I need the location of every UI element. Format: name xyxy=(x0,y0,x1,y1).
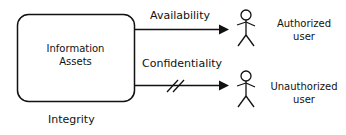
asset-label-line2: Assets xyxy=(17,55,134,68)
authorized-user-label: Authorized user xyxy=(268,17,340,43)
stick-figure-icon xyxy=(237,10,255,46)
unauthorized-user-line2: user xyxy=(266,93,342,106)
confidentiality-arrow xyxy=(135,80,230,92)
information-assets-label: Information Assets xyxy=(17,42,134,68)
authorized-user-line1: Authorized xyxy=(268,17,340,30)
unauthorized-user-label: Unauthorized user xyxy=(266,80,342,106)
authorized-user-line2: user xyxy=(268,30,340,43)
availability-label: Availability xyxy=(150,9,210,22)
availability-arrow xyxy=(135,25,230,35)
unauthorized-user-line1: Unauthorized xyxy=(266,80,342,93)
stick-figure-icon xyxy=(237,71,255,107)
asset-label-line1: Information xyxy=(17,42,134,55)
integrity-label: Integrity xyxy=(48,113,95,126)
confidentiality-label: Confidentiality xyxy=(142,57,222,70)
